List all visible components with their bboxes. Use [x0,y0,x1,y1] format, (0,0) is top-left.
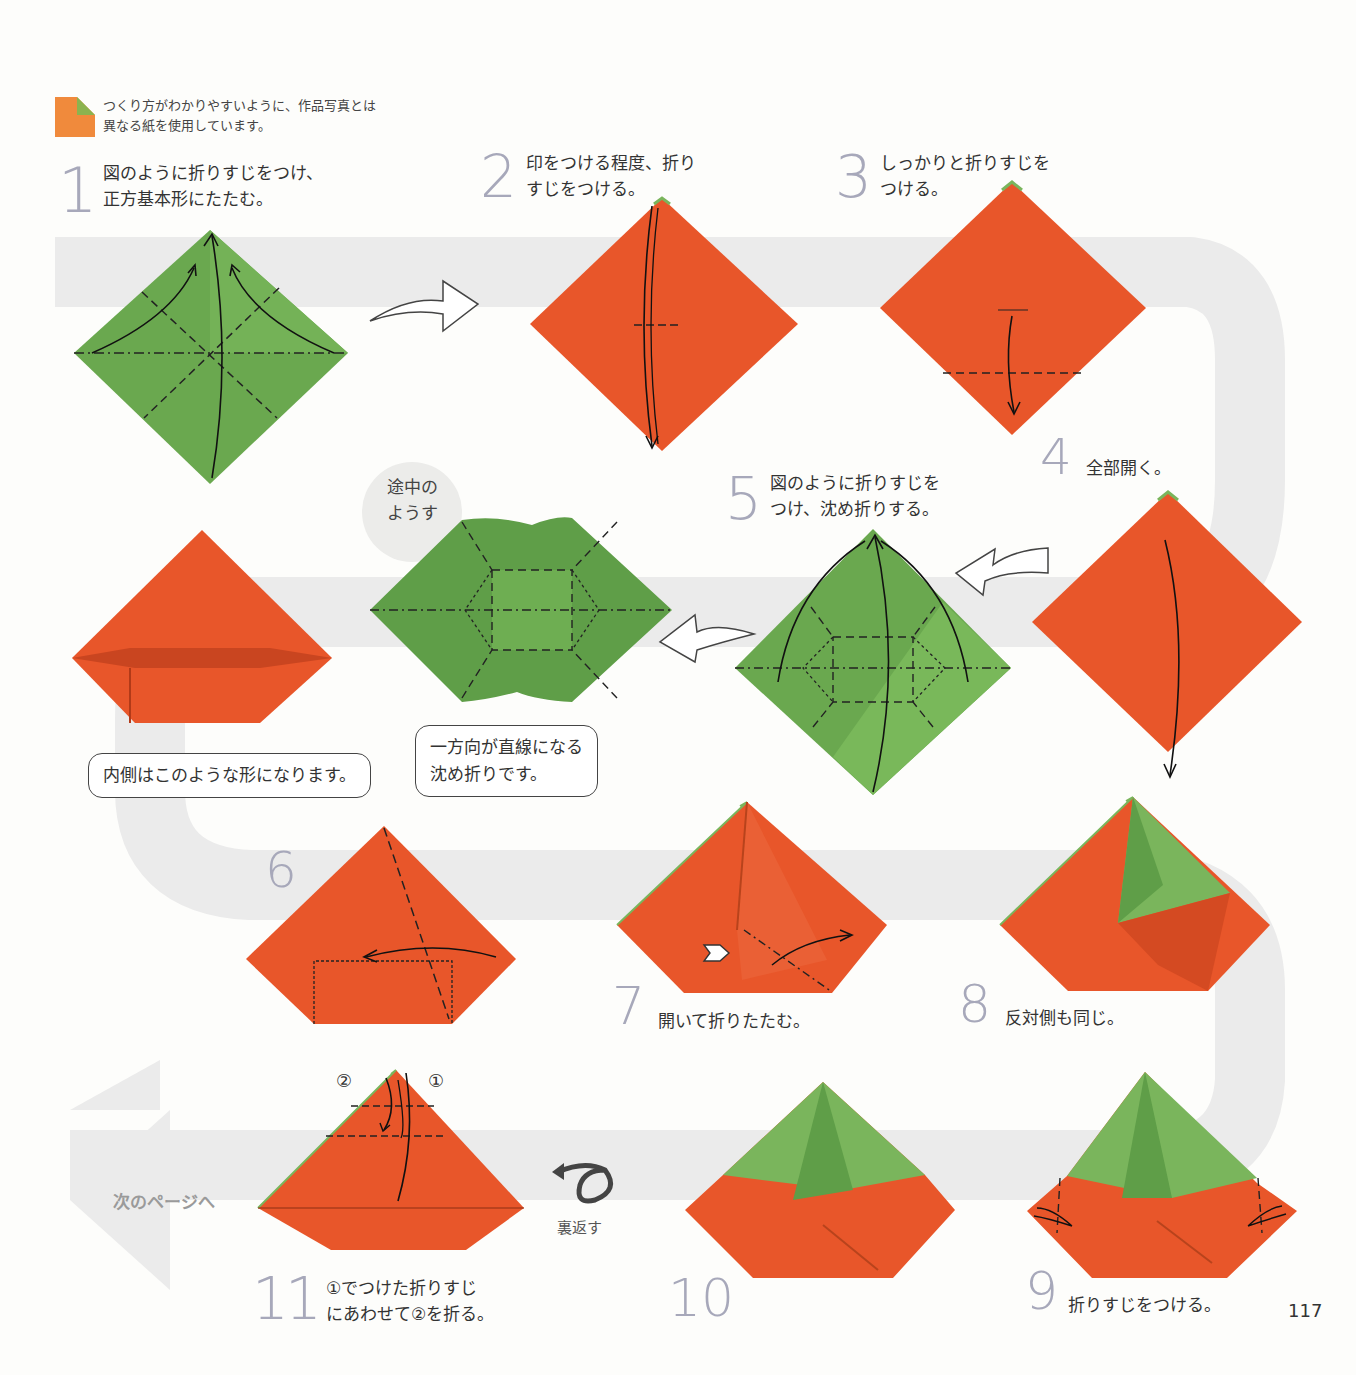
flip-over-icon[interactable] [550,1160,620,1210]
step-7-diagram [612,800,892,1000]
step-5-diagram [733,527,1013,797]
in-progress-diagram [367,510,677,700]
step-text-9: 折りすじをつける。 [1068,1292,1221,1318]
step-11-diagram [256,1068,526,1253]
step-number-3: 3 [835,148,872,206]
push-arrow-icon [702,942,732,964]
flip-over-label: 裏返す [557,1216,602,1237]
paper-note: つくり方がわかりやすいように、作品写真とは 異なる紙を使用しています。 [103,96,376,136]
step-text-1: 図のように折りすじをつけ、 正方基本形にたたむ。 [103,160,323,212]
step-10-diagram [683,1080,958,1280]
step-9-diagram [1012,1068,1287,1278]
step-number-5: 5 [725,470,762,528]
step-number-7: 7 [612,980,645,1032]
step-number-4: 4 [1040,432,1072,482]
step-2-diagram [528,196,803,456]
step-number-11: 11 [252,1270,318,1328]
step-number-10: 10 [668,1272,734,1324]
step-text-5: 図のように折りすじを つけ、沈め折りする。 [770,470,940,522]
step-text-4: 全部開く。 [1086,455,1171,481]
step-text-8: 反対側も同じ。 [1005,1005,1124,1031]
step-3-diagram [878,180,1148,440]
step-number-8: 8 [958,978,991,1030]
paper-sample-icon [55,97,95,137]
step-text-7: 開いて折りたたむ。 [658,1008,810,1034]
next-page-link[interactable]: 次のページへ [113,1188,215,1213]
sink-fold-callout: 一方向が直線になる 沈め折りです。 [415,725,598,797]
step-number-9: 9 [1025,1265,1058,1317]
inside-shape-callout: 内側はこのような形になります。 [88,753,371,798]
page-number: 117 [1288,1300,1322,1321]
step-text-2: 印をつける程度、折り すじをつける。 [526,150,696,202]
inside-shape-diagram [70,528,335,728]
step-8-diagram [998,795,1273,995]
step-6-diagram [244,824,519,1029]
step-1-diagram [72,228,352,488]
flow-arrow-icon [368,276,483,336]
step-number-2: 2 [480,148,517,206]
step-4-diagram [1030,490,1305,780]
step-text-11: ①でつけた折りすじ にあわせて②を折る。 [326,1275,494,1327]
step-number-1: 1 [58,160,97,222]
